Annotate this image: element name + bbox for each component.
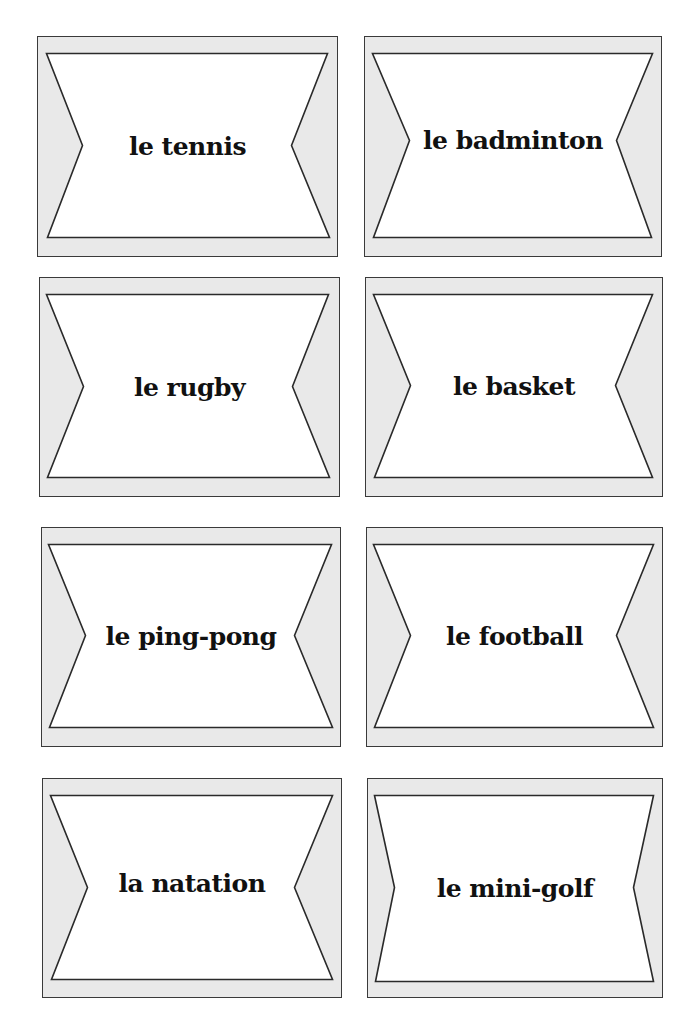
card-label: le mini-golf bbox=[368, 874, 662, 904]
card-label: le tennis bbox=[38, 132, 337, 162]
card-le-mini-golf: le mini-golf bbox=[367, 778, 663, 998]
card-le-rugby: le rugby bbox=[39, 277, 340, 497]
card-le-ping-pong: le ping-pong bbox=[41, 527, 341, 747]
card-label: le football bbox=[367, 622, 662, 652]
card-le-football: le football bbox=[366, 527, 663, 747]
card-label: le rugby bbox=[40, 373, 339, 403]
card-le-basket: le basket bbox=[365, 277, 663, 497]
card-label: le basket bbox=[366, 372, 662, 402]
card-le-tennis: le tennis bbox=[37, 36, 338, 257]
card-label: le ping-pong bbox=[42, 622, 340, 652]
card-le-badminton: le badminton bbox=[364, 36, 662, 257]
card-label: le badminton bbox=[365, 126, 661, 156]
card-la-natation: la natation bbox=[42, 778, 342, 998]
card-label: la natation bbox=[43, 869, 341, 899]
